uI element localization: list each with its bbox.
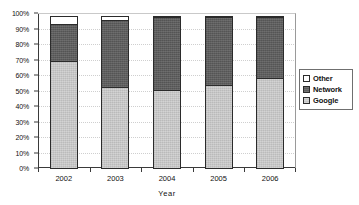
x-tick-mark — [193, 168, 194, 172]
x-axis-title: Year — [38, 189, 296, 198]
bar-segment-google-2002[interactable] — [50, 61, 78, 170]
legend-item-google[interactable]: Google — [303, 95, 349, 106]
legend-item-network[interactable]: Network — [303, 84, 349, 95]
legend-item-other[interactable]: Other — [303, 73, 349, 84]
x-tick-mark — [38, 168, 39, 172]
legend: OtherNetworkGoogle — [299, 69, 353, 110]
x-tick-label-2004: 2004 — [159, 174, 176, 183]
stacked-bar-2005[interactable] — [205, 13, 233, 168]
x-tick-label-2006: 2006 — [262, 174, 279, 183]
x-tick-label-2003: 2003 — [107, 174, 124, 183]
y-tick-label-60: 60% — [16, 72, 29, 79]
bar-series-group — [38, 13, 296, 168]
x-tick-label-2005: 2005 — [210, 174, 227, 183]
legend-swatch-network-icon — [303, 86, 310, 93]
x-axis-ticks — [38, 168, 296, 173]
y-axis: 0%10%20%30%40%50%60%70%80%90%100% — [0, 0, 34, 205]
bar-slot-2002 — [38, 13, 90, 168]
bar-segment-google-2004[interactable] — [153, 90, 181, 169]
stacked-bar-2006[interactable] — [256, 13, 284, 168]
bar-slot-2006 — [244, 13, 296, 168]
y-tick-label-80: 80% — [16, 41, 29, 48]
stacked-column-chart: 0%10%20%30%40%50%60%70%80%90%100% 200220… — [0, 0, 359, 205]
x-tick-label-2002: 2002 — [55, 174, 72, 183]
stacked-bar-2002[interactable] — [50, 13, 78, 168]
y-tick-label-30: 30% — [16, 118, 29, 125]
y-tick-label-50: 50% — [16, 87, 29, 94]
y-tick-label-40: 40% — [16, 103, 29, 110]
bar-segment-network-2005[interactable] — [205, 17, 233, 87]
legend-swatch-other-icon — [303, 75, 310, 82]
bar-segment-google-2005[interactable] — [205, 85, 233, 169]
x-tick-mark — [295, 168, 296, 172]
legend-swatch-google-icon — [303, 97, 310, 104]
legend-label-google: Google — [313, 96, 338, 105]
bar-segment-network-2003[interactable] — [101, 20, 129, 88]
bar-segment-google-2006[interactable] — [256, 78, 284, 169]
bar-slot-2004 — [141, 13, 193, 168]
x-tick-mark — [90, 168, 91, 172]
bar-slot-2003 — [90, 13, 142, 168]
legend-label-other: Other — [313, 74, 333, 83]
bar-segment-network-2006[interactable] — [256, 17, 284, 79]
legend-label-network: Network — [313, 85, 342, 94]
stacked-bar-2004[interactable] — [153, 13, 181, 168]
y-tick-label-90: 90% — [16, 25, 29, 32]
stacked-bar-2003[interactable] — [101, 13, 129, 168]
bar-slot-2005 — [193, 13, 245, 168]
bar-segment-network-2004[interactable] — [153, 17, 181, 91]
x-tick-mark — [141, 168, 142, 172]
x-tick-mark — [244, 168, 245, 172]
y-tick-label-100: 100% — [12, 10, 29, 17]
y-tick-label-70: 70% — [16, 56, 29, 63]
y-tick-label-0: 0% — [19, 165, 29, 172]
y-tick-label-20: 20% — [16, 134, 29, 141]
x-axis-labels: 20022003200420052006 — [38, 174, 296, 186]
bar-segment-network-2002[interactable] — [50, 24, 78, 61]
bar-segment-google-2003[interactable] — [101, 87, 129, 169]
y-tick-label-10: 10% — [16, 149, 29, 156]
